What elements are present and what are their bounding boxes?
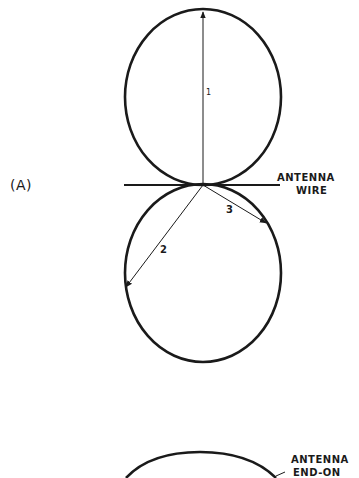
vector-1-label: 1: [206, 89, 212, 97]
lower-lobe: [125, 184, 281, 362]
end-on-pattern-arc: [126, 452, 276, 478]
end-on-leader-line: [276, 472, 285, 476]
radiation-pattern-diagram: [0, 0, 359, 478]
panel-label: (A): [10, 178, 32, 192]
end-on-label-line2: END-ON: [293, 468, 341, 478]
end-on-label-line1: ANTENNA: [291, 455, 349, 465]
vector-2-arrow: [126, 185, 203, 287]
vector-3-label: 3: [226, 205, 233, 215]
antenna-wire-label-line1: ANTENNA: [277, 173, 335, 183]
vector-2-label: 2: [160, 245, 167, 255]
antenna-wire-label-line2: WIRE: [296, 186, 327, 196]
